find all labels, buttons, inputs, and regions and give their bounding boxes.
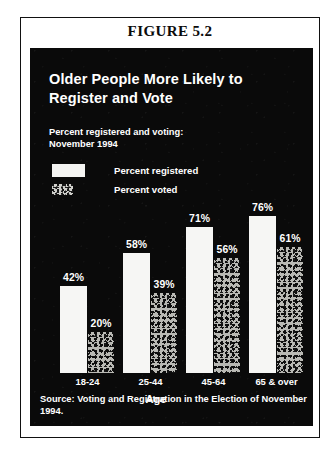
- bar-group: 58%39%: [123, 208, 178, 373]
- legend-swatch-voted-icon: [52, 184, 73, 195]
- chart-title: Older People More Likely to Register and…: [49, 70, 289, 107]
- bar-group: 76%61%: [249, 208, 304, 373]
- bar-registered: [60, 286, 87, 373]
- legend-item-registered: Percent registered: [52, 161, 292, 180]
- plot-area: 42%20%58%39%71%56%76%61%: [50, 208, 307, 373]
- x-axis-tick-label: 45-64: [186, 376, 241, 387]
- bar-value-label: 61%: [280, 233, 301, 244]
- bar-voted: [88, 332, 114, 373]
- bar-voted: [214, 258, 240, 374]
- chart-legend: Percent registered Percent voted: [52, 161, 292, 199]
- legend-label-registered: Percent registered: [114, 165, 198, 176]
- legend-swatch-registered-wrap: [52, 164, 114, 177]
- bar-group: 71%56%: [186, 208, 241, 373]
- figure-number-caption: FIGURE 5.2: [21, 23, 319, 40]
- legend-swatch-registered-icon: [52, 164, 85, 177]
- bar-pair: 71%56%: [186, 208, 241, 373]
- bar-voted: [151, 293, 177, 373]
- bar-value-label: 39%: [154, 279, 175, 290]
- figure-frame: FIGURE 5.2 Older People More Likely to R…: [20, 17, 320, 438]
- bar-voted: [277, 247, 303, 373]
- legend-swatch-voted-wrap: [52, 184, 114, 195]
- bar-pair: 58%39%: [123, 208, 178, 373]
- bar-group: 42%20%: [60, 208, 115, 373]
- bar-value-label: 58%: [126, 239, 147, 250]
- bar-value-label: 71%: [189, 213, 210, 224]
- x-axis-ticks: 18-2425-4445-6465 & over: [50, 376, 307, 392]
- x-axis-tick-label: 65 & over: [249, 376, 304, 387]
- chart-subtitle: Percent registered and voting:November 1…: [49, 126, 279, 151]
- bar-registered: [123, 253, 150, 373]
- chart-panel: Older People More Likely to Register and…: [30, 48, 313, 426]
- source-note: Source: Voting and Registration in the E…: [40, 393, 308, 418]
- x-axis-tick-label: 18-24: [60, 376, 115, 387]
- bar-value-label: 76%: [252, 202, 273, 213]
- legend-item-voted: Percent voted: [52, 180, 292, 199]
- bar-registered: [249, 216, 276, 373]
- bar-registered: [186, 227, 213, 373]
- legend-label-voted: Percent voted: [114, 184, 177, 195]
- bar-value-label: 56%: [217, 244, 238, 255]
- bar-pair: 76%61%: [249, 208, 304, 373]
- bar-pair: 42%20%: [60, 208, 115, 373]
- bar-value-label: 20%: [91, 318, 112, 329]
- bar-value-label: 42%: [63, 272, 84, 283]
- x-axis-tick-label: 25-44: [123, 376, 178, 387]
